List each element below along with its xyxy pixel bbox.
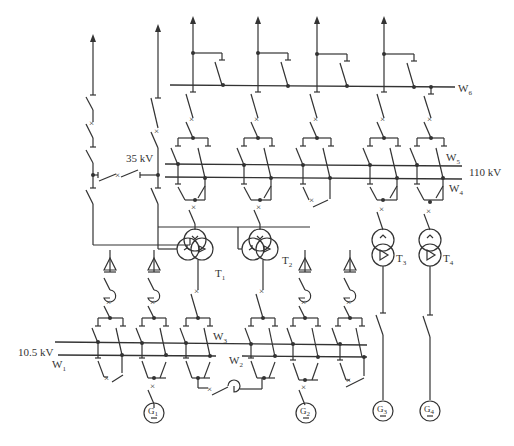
transformer-t1: T1 <box>158 227 226 290</box>
section-35kv: × <box>93 170 158 181</box>
svg-text:×: × <box>89 118 94 128</box>
bus-w1 <box>58 355 216 356</box>
label-10-5kv: 10.5 kV <box>18 346 54 358</box>
transformer-t4: T4 <box>419 229 454 400</box>
svg-text:×: × <box>379 204 384 214</box>
svg-text:T4: T4 <box>443 252 454 267</box>
generator-g4: G4 <box>420 401 440 421</box>
svg-text:T2: T2 <box>282 254 293 269</box>
svg-text:×: × <box>313 114 318 124</box>
label-w5: W5 <box>446 151 460 166</box>
feeder-35kv-2: × <box>151 24 310 227</box>
label-w1: W1 <box>52 358 66 373</box>
svg-text:G3: G3 <box>377 404 388 416</box>
svg-text:×: × <box>254 114 259 124</box>
line-bays-110kv: × × × <box>171 16 447 180</box>
svg-text:×: × <box>301 382 306 392</box>
svg-text:×: × <box>346 375 351 385</box>
low-voltage-bays: × × × × × <box>92 250 366 408</box>
svg-text:×: × <box>256 202 261 212</box>
label-w6: W6 <box>458 82 472 97</box>
svg-text:×: × <box>150 297 155 307</box>
transformer-t3: T3 <box>372 229 407 400</box>
svg-text:G4: G4 <box>424 404 435 416</box>
svg-text:×: × <box>106 297 111 307</box>
generator-g2: G2 <box>296 403 316 423</box>
transformer-t2: T2 <box>238 227 293 290</box>
svg-text:T3: T3 <box>396 252 407 267</box>
bus-w3 <box>55 342 367 345</box>
svg-text:G1: G1 <box>148 406 159 418</box>
label-35kv: 35 kV <box>126 152 153 164</box>
svg-text:×: × <box>259 286 264 296</box>
svg-text:G2: G2 <box>300 406 311 418</box>
svg-text:×: × <box>191 202 196 212</box>
svg-text:×: × <box>427 114 432 124</box>
label-w2: W2 <box>229 354 243 369</box>
svg-text:×: × <box>150 381 155 391</box>
svg-text:×: × <box>380 114 385 124</box>
svg-text:×: × <box>154 126 159 136</box>
feeder-35kv-1: × <box>86 34 190 245</box>
label-110kv: 110 kV <box>469 166 501 178</box>
svg-text:×: × <box>194 286 199 296</box>
electrical-wiring-diagram: × × × 35 kV W6 <box>0 0 514 446</box>
generator-g1: G1 <box>144 403 164 423</box>
svg-text:×: × <box>426 206 431 216</box>
svg-text:×: × <box>309 195 314 205</box>
label-w3: W3 <box>213 330 227 345</box>
svg-text:×: × <box>104 373 109 383</box>
svg-text:×: × <box>189 114 194 124</box>
svg-text:×: × <box>346 297 351 307</box>
svg-text:×: × <box>301 297 306 307</box>
label-w4: W4 <box>449 182 463 197</box>
bus-w2 <box>242 356 367 357</box>
svg-text:T1: T1 <box>215 267 226 282</box>
svg-text:×: × <box>207 384 212 394</box>
transformer-bays-110kv: × × × × × <box>175 165 443 230</box>
generator-g3: G3 <box>373 401 393 421</box>
svg-text:×: × <box>115 170 120 180</box>
